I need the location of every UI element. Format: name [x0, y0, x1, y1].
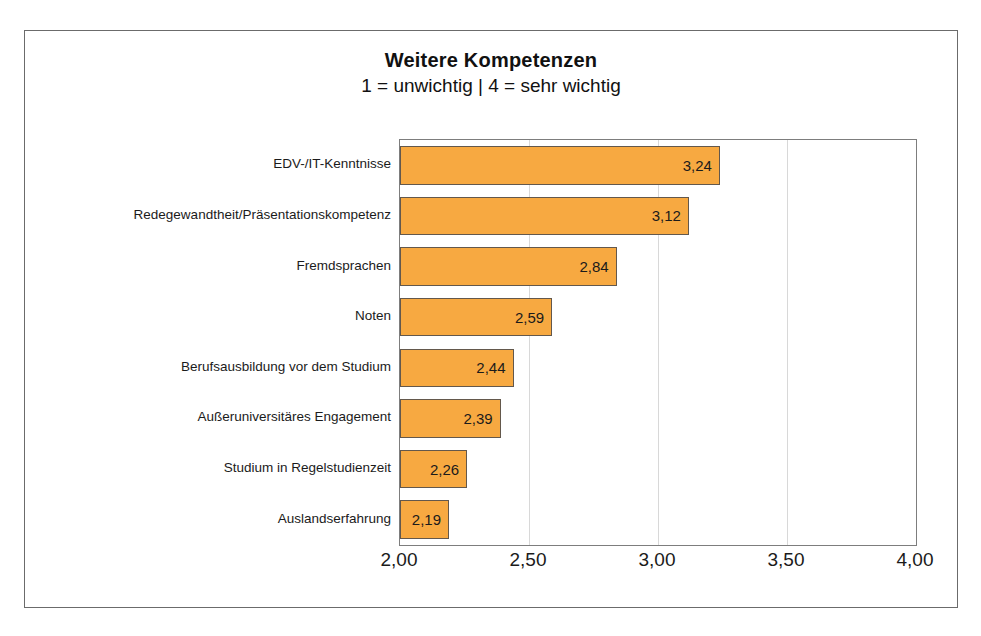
- x-axis-tick-label: 2,00: [381, 550, 418, 569]
- plot-wrapper: EDV-/IT-KenntnisseRedegewandtheit/Präsen…: [25, 31, 959, 609]
- value-axis: 2,002,503,003,504,00: [399, 550, 917, 584]
- bar-value-label: 3,12: [652, 208, 688, 223]
- bar: 2,44: [400, 349, 514, 387]
- category-label: Außeruniversitäres Engagement: [25, 410, 391, 424]
- bar-value-label: 2,44: [476, 360, 512, 375]
- category-label: Auslandserfahrung: [25, 512, 391, 526]
- bar: 2,39: [400, 399, 501, 437]
- chart-figure: Weitere Kompetenzen 1 = unwichtig | 4 = …: [24, 30, 958, 608]
- bar-value-label: 2,39: [463, 411, 499, 426]
- x-axis-tick-label: 3,50: [768, 550, 805, 569]
- category-label: Fremdsprachen: [25, 259, 391, 273]
- bar: 3,12: [400, 197, 689, 235]
- category-label: Redegewandtheit/Präsentationskompetenz: [25, 208, 391, 222]
- category-label: Noten: [25, 309, 391, 323]
- category-label: Studium in Regelstudienzeit: [25, 461, 391, 475]
- x-axis-tick-label: 2,50: [510, 550, 547, 569]
- bar: 2,26: [400, 450, 467, 488]
- category-label: Berufsausbildung vor dem Studium: [25, 360, 391, 374]
- bar-value-label: 2,19: [412, 512, 448, 527]
- category-axis: EDV-/IT-KenntnisseRedegewandtheit/Präsen…: [25, 139, 391, 546]
- bar: 2,19: [400, 500, 449, 538]
- gridline: [787, 140, 788, 545]
- bar: 2,59: [400, 298, 552, 336]
- bar: 2,84: [400, 247, 617, 285]
- bar: 3,24: [400, 146, 720, 184]
- plot-area: 3,243,122,842,592,442,392,262,19: [399, 139, 917, 546]
- x-axis-tick-label: 4,00: [897, 550, 934, 569]
- bar-value-label: 3,24: [683, 158, 719, 173]
- category-label: EDV-/IT-Kenntnisse: [25, 157, 391, 171]
- bar-value-label: 2,84: [580, 259, 616, 274]
- bar-value-label: 2,59: [515, 310, 551, 325]
- x-axis-tick-label: 3,00: [639, 550, 676, 569]
- bar-value-label: 2,26: [430, 462, 466, 477]
